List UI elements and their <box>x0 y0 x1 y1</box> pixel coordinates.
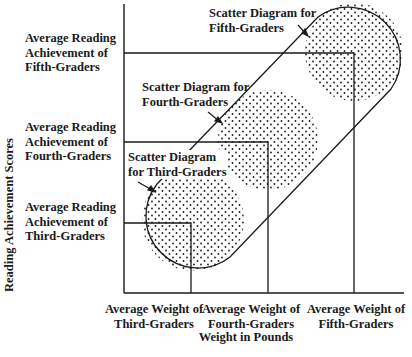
y-axis-title: Reading Achievement Scores <box>2 138 17 292</box>
scatter-label-third-graders: Scatter Diagram for Third-Graders <box>128 150 227 179</box>
scatter-label-fifth-graders: Scatter Diagram for Fifth-Graders <box>209 6 316 35</box>
y-label-third-graders: Average Reading Achievement of Third-Gra… <box>25 200 116 244</box>
scatter-label-fourth-graders: Scatter Diagram for Fourth-Graders <box>142 80 249 109</box>
x-label-fifth-graders: Average Weight of Fifth-Graders <box>301 302 411 331</box>
y-label-fourth-graders: Average Reading Achievement of Fourth-Gr… <box>25 120 116 164</box>
x-label-third-graders: Average Weight of Third-Graders <box>99 302 209 331</box>
x-label-fourth-graders: Average Weight of Fourth-Graders <box>196 302 306 331</box>
x-axis-title: Weight in Pounds <box>40 330 412 345</box>
y-label-fifth-graders: Average Reading Achievement of Fifth-Gra… <box>25 31 116 75</box>
